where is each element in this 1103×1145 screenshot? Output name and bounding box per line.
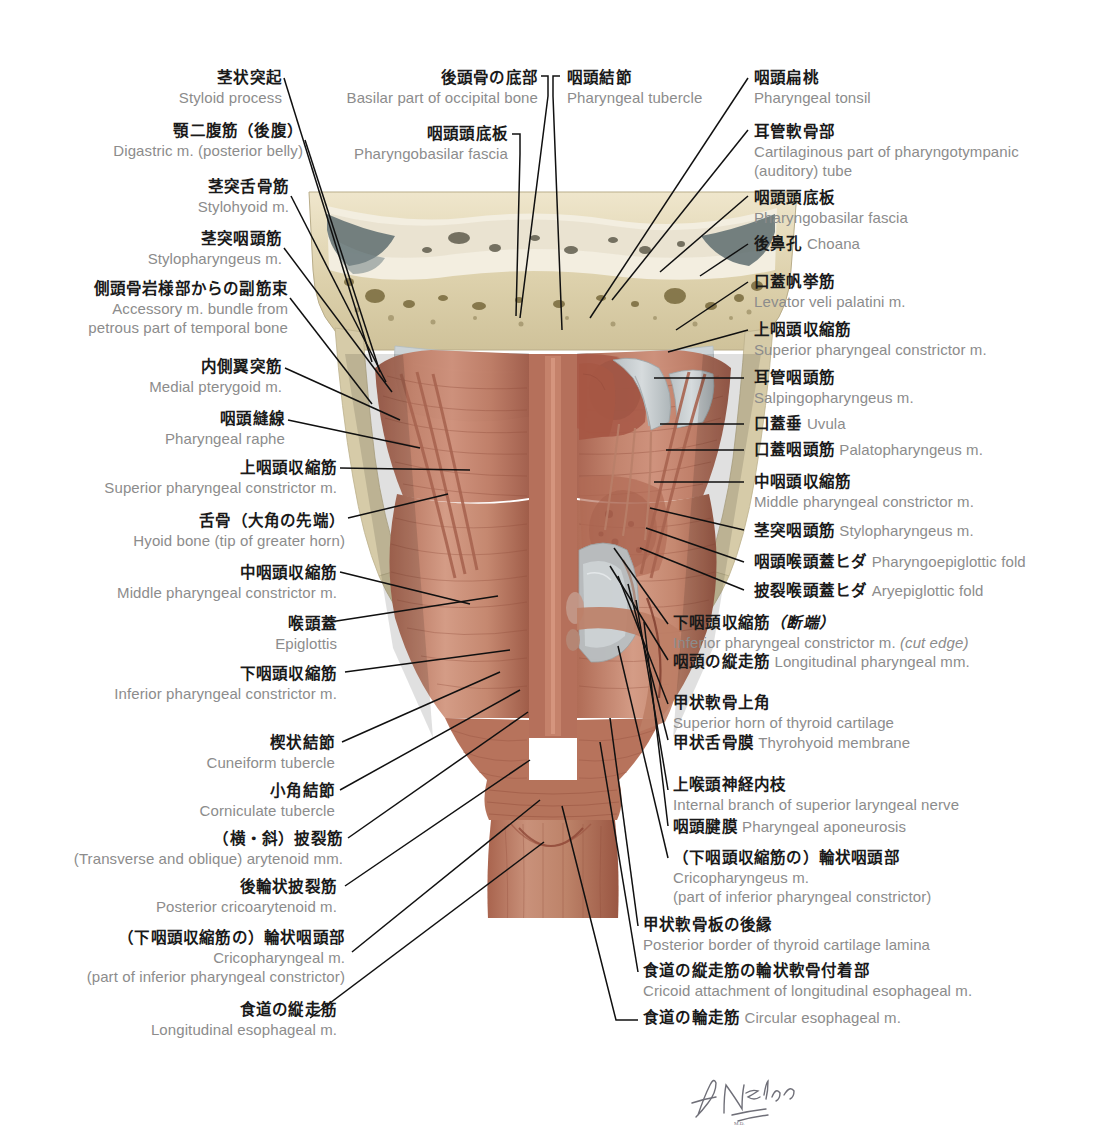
label-pharyngoepiglottic-fold: 咽頭喉頭蓋ヒダ Pharyngoepiglottic fold xyxy=(754,552,1026,572)
label-pharyngeal-tubercle: 咽頭結節 Pharyngeal tubercle xyxy=(567,68,702,107)
label-accessory-muscle-bundle: 側頭骨岩様部からの副筋束 Accessory m. bundle from pe… xyxy=(0,279,288,337)
label-pharyngobasilar-fascia-right: 咽頭頭底板 Pharyngobasilar fascia xyxy=(754,188,908,227)
label-basilar-part-occipital-bone: 後頭骨の底部 Basilar part of occipital bone xyxy=(300,68,538,107)
label-superior-constrictor-right: 上咽頭収縮筋 Superior pharyngeal constrictor m… xyxy=(754,320,987,359)
label-circular-esophageal-muscle: 食道の輪走筋 Circular esophageal m. xyxy=(643,1008,901,1028)
label-posterior-cricoarytenoid: 後輪状披裂筋 Posterior cricoarytenoid m. xyxy=(0,877,337,916)
cricopharyngeus-and-esophagus xyxy=(484,780,621,918)
svg-text:M.D.: M.D. xyxy=(734,1121,745,1126)
label-thyrohyoid-membrane: 甲状舌骨膜 Thyrohyoid membrane xyxy=(673,733,910,753)
label-stylopharyngeus-right: 茎突咽頭筋 Stylopharyngeus m. xyxy=(754,521,974,541)
label-middle-constrictor-right: 中咽頭収縮筋 Middle pharyngeal constrictor m. xyxy=(754,472,974,511)
levator-veli-palatini xyxy=(579,363,615,440)
label-auditory-tube-cartilage: 耳管軟骨部 Cartilaginous part of pharyngotymp… xyxy=(754,122,1019,180)
label-middle-constrictor-left: 中咽頭収縮筋 Middle pharyngeal constrictor m. xyxy=(0,563,337,602)
anatomical-figure: 茎状突起 Styloid process 顎二腹筋（後腹） Digastric … xyxy=(0,0,1103,1145)
pharyngeal-raphe xyxy=(529,354,577,738)
label-pharyngeal-raphe: 咽頭縫線 Pharyngeal raphe xyxy=(0,409,285,448)
label-longitudinal-esophageal-muscle-left: 食道の縦走筋 Longitudinal esophageal m. xyxy=(0,1000,337,1039)
label-cuneiform-tubercle: 楔状結節 Cuneiform tubercle xyxy=(0,733,335,772)
label-styloid-process: 茎状突起 Styloid process xyxy=(0,68,282,107)
label-hyoid-bone: 舌骨（大角の先端） Hyoid bone (tip of greater hor… xyxy=(0,511,345,550)
label-stylopharyngeus-muscle: 茎突咽頭筋 Stylopharyngeus m. xyxy=(0,229,282,268)
label-aryepiglottic-fold: 披裂喉頭蓋ヒダ Aryepiglottic fold xyxy=(754,581,984,601)
label-longitudinal-pharyngeal-muscles: 咽頭の縦走筋 Longitudinal pharyngeal mm. xyxy=(673,652,970,672)
label-choana: 後鼻孔 Choana xyxy=(754,234,860,254)
label-palatopharyngeus: 口蓋咽頭筋 Palatopharyngeus m. xyxy=(754,440,983,460)
label-pharyngeal-tonsil: 咽頭扁桃 Pharyngeal tonsil xyxy=(754,68,871,107)
label-digastric-muscle: 顎二腹筋（後腹） Digastric m. (posterior belly) xyxy=(0,121,303,160)
label-superior-constrictor-left: 上咽頭収縮筋 Superior pharyngeal constrictor m… xyxy=(0,458,337,497)
label-medial-pterygoid: 内側翼突筋 Medial pterygoid m. xyxy=(0,357,282,396)
label-stylohyoid-muscle: 茎突舌骨筋 Stylohyoid m. xyxy=(0,177,289,216)
label-pharyngeal-aponeurosis: 咽頭腱膜 Pharyngeal aponeurosis xyxy=(673,817,906,837)
label-epiglottis: 喉頭蓋 Epiglottis xyxy=(0,614,337,653)
label-arytenoid-muscles: （横・斜）披裂筋 (Transverse and oblique) aryten… xyxy=(0,829,343,868)
skull-base-bone xyxy=(309,192,797,350)
label-cricoid-attachment-longitudinal-esophageal: 食道の縦走筋の輪状軟骨付着部 Cricoid attachment of lon… xyxy=(643,961,972,1000)
label-inferior-constrictor-cut-edge: 下咽頭収縮筋（断端） Inferior pharyngeal constrict… xyxy=(673,613,968,652)
label-posterior-border-thyroid-lamina: 甲状軟骨板の後縁 Posterior border of thyroid car… xyxy=(643,915,930,954)
label-uvula: 口蓋垂 Uvula xyxy=(754,414,846,434)
label-internal-branch-superior-laryngeal-nerve: 上喉頭神経内枝 Internal branch of superior lary… xyxy=(673,775,959,814)
label-superior-horn-thyroid-cartilage: 甲状軟骨上角 Superior horn of thyroid cartilag… xyxy=(673,693,894,732)
label-pharyngobasilar-fascia-top: 咽頭頭底板 Pharyngobasilar fascia xyxy=(300,124,508,163)
label-corniculate-tubercle: 小角結節 Corniculate tubercle xyxy=(0,781,335,820)
label-inferior-constrictor-left: 下咽頭収縮筋 Inferior pharyngeal constrictor m… xyxy=(0,664,337,703)
label-cricopharyngeal-muscle-left: （下咽頭収縮筋の）輪状咽頭部 Cricopharyngeal m. (part … xyxy=(0,928,345,986)
label-levator-veli-palatini: 口蓋帆挙筋 Levator veli palatini m. xyxy=(754,272,906,311)
artist-signature: M.D. xyxy=(688,1075,828,1127)
label-salpingopharyngeus: 耳管咽頭筋 Salpingopharyngeus m. xyxy=(754,368,914,407)
label-cricopharyngeus-right: （下咽頭収縮筋の）輪状咽頭部 Cricopharyngeus m. (part … xyxy=(673,848,931,906)
